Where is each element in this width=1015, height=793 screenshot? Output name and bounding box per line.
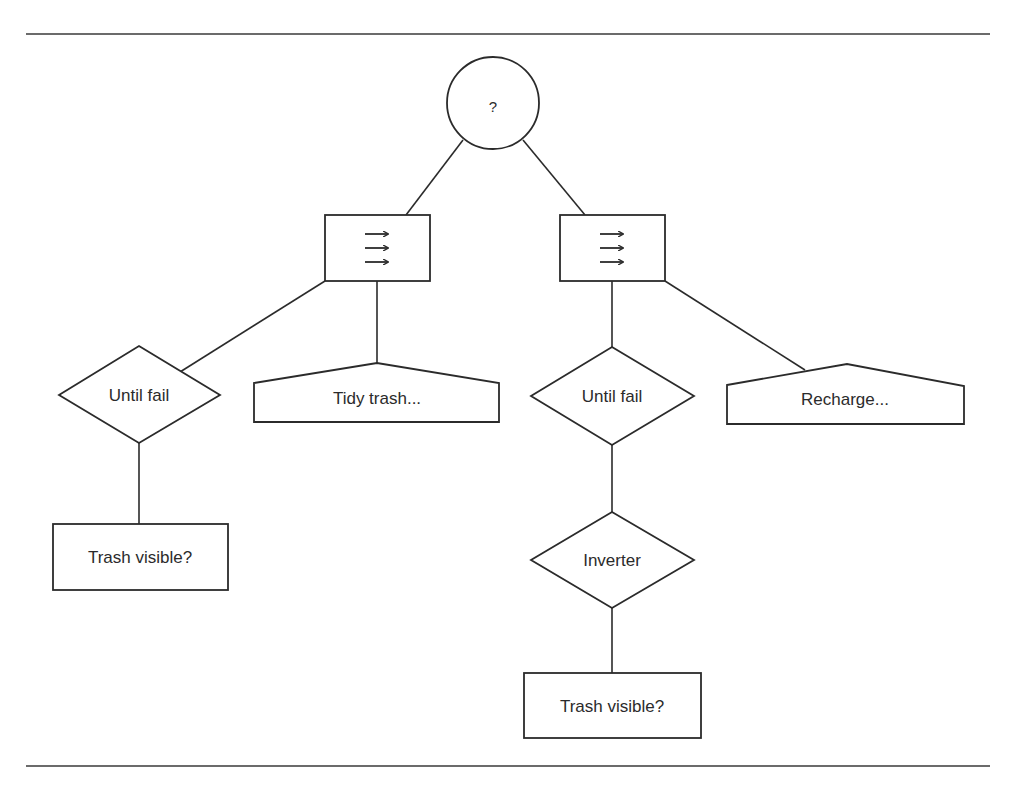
until-fail-node-left: Until fail <box>59 346 220 443</box>
inverter-node: Inverter <box>531 512 694 608</box>
trash-visible-node-right: Trash visible? <box>524 673 701 738</box>
edge-seq-right-recharge <box>665 281 805 370</box>
tidy-trash-label: Tidy trash... <box>333 389 421 408</box>
trash-visible-left-label: Trash visible? <box>88 548 192 567</box>
sequence-node-right <box>560 215 665 281</box>
until-fail-node-right: Until fail <box>531 347 694 445</box>
sequence-node-left <box>325 215 430 281</box>
trash-visible-right-label: Trash visible? <box>560 697 664 716</box>
tidy-trash-node: Tidy trash... <box>254 363 499 422</box>
selector-symbol: ? <box>489 98 497 115</box>
trash-visible-node-left: Trash visible? <box>53 524 228 590</box>
inverter-label: Inverter <box>583 551 641 570</box>
edge-selector-seq-left <box>406 140 463 215</box>
until-fail-left-label: Until fail <box>109 386 169 405</box>
edge-selector-seq-right <box>523 140 585 215</box>
recharge-label: Recharge... <box>801 390 889 409</box>
until-fail-right-label: Until fail <box>582 387 642 406</box>
behaviour-tree-diagram: ? Until fail Tidy trash... Trash visible… <box>0 0 1015 793</box>
recharge-node: Recharge... <box>727 364 964 424</box>
edge-seq-left-until-fail <box>180 281 325 372</box>
selector-node: ? <box>447 57 539 149</box>
